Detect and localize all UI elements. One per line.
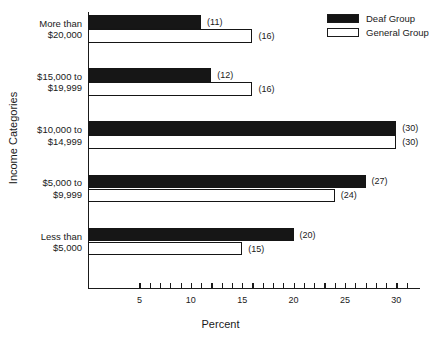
bar-value-label: (24) [341,190,357,200]
bar-general [88,29,252,43]
bar-value-label: (15) [248,244,264,254]
x-axis-tick [191,283,192,288]
x-axis-tick [211,283,212,288]
y-axis-title: Income Categories [7,63,19,213]
x-axis-tick [283,283,284,288]
bar-value-label: (11) [207,17,222,27]
category-label: Less than $5,000 [0,230,82,253]
x-axis-tick [273,283,274,288]
x-axis-tick [242,283,243,288]
bar-deaf [88,228,294,242]
category-label: More than $20,000 [0,17,82,40]
x-axis-tick [324,283,325,288]
x-axis-tick [263,283,264,288]
x-axis-tick-label: 5 [137,295,142,305]
x-axis-tick [170,283,171,288]
x-axis-tick [355,283,356,288]
bar-value-label: (27) [372,176,388,186]
x-axis-tick [366,283,367,288]
bar-value-label: (16) [258,31,274,41]
bar-value-label: (16) [258,84,274,94]
bar-general [88,82,252,96]
bar-deaf [88,121,396,135]
bar-deaf [88,68,211,82]
bar-value-label: (12) [217,70,233,80]
x-axis-tick [386,283,387,288]
bar-general [88,135,396,149]
x-axis-tick [201,283,202,288]
x-axis-tick [139,283,140,288]
x-axis-tick [181,283,182,288]
x-axis-tick [150,283,151,288]
x-axis-tick [304,283,305,288]
x-axis-tick [396,283,397,288]
x-axis-tick-label: 10 [186,295,196,305]
x-axis-tick [345,283,346,288]
x-axis-tick [252,283,253,288]
bar-value-label: (20) [300,230,316,240]
x-axis-line [88,288,420,289]
x-axis-tick [222,283,223,288]
bar-general [88,189,335,203]
x-axis-tick [376,283,377,288]
x-axis-tick [407,283,408,288]
x-axis-tick-label: 20 [289,295,299,305]
x-axis-tick-label: 30 [391,295,401,305]
x-axis-title: Percent [0,318,441,330]
bar-general [88,242,242,256]
bar-chart: Deaf Group General Group (20)(15)(27)(24… [0,0,441,348]
x-axis-tick [335,283,336,288]
plot-area: (20)(15)(27)(24)(30)(30)(12)(16)(11)(16) [88,12,428,289]
x-axis-tick [160,283,161,288]
bar-value-label: (30) [402,137,418,147]
bar-value-label: (30) [402,123,418,133]
x-axis-tick [314,283,315,288]
x-axis-tick-label: 25 [340,295,350,305]
x-axis-tick [232,283,233,288]
bar-deaf [88,15,201,29]
x-axis-tick-label: 15 [237,295,247,305]
bar-deaf [88,175,366,189]
x-axis-tick [294,283,295,288]
